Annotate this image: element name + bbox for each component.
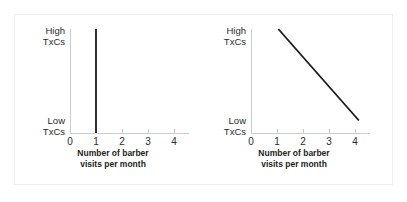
x-axis-title-line1-left: Number of barber [23, 148, 203, 159]
chart-panel-left: High TxCs Low TxCs 0 1 2 3 4 Numb [23, 15, 203, 186]
data-series-sloping-line [247, 21, 387, 146]
x-axis-title-line2-right: visits per month [204, 159, 384, 170]
y-axis-high-label-left: High TxCs [23, 25, 65, 47]
data-series-vertical-line [66, 21, 196, 141]
y-axis-low-label-line2-left: TxCs [23, 126, 65, 137]
x-axis-title-line1-right: Number of barber [204, 148, 384, 159]
y-axis-low-label-right: Low TxCs [204, 115, 246, 137]
plot-area-right: High TxCs Low TxCs 0 1 2 3 4 [251, 29, 369, 133]
x-axis-title-left: Number of barber visits per month [23, 148, 203, 169]
y-axis-high-label-line2-right: TxCs [204, 36, 246, 47]
y-axis-low-label-left: Low TxCs [23, 115, 65, 137]
x-axis-title-right: Number of barber visits per month [204, 148, 384, 169]
x-axis-title-line2-left: visits per month [23, 159, 203, 170]
y-axis-low-label-line2-right: TxCs [204, 126, 246, 137]
y-axis-high-label-line1-left: High [23, 25, 65, 36]
figure-card: High TxCs Low TxCs 0 1 2 3 4 Numb [14, 14, 393, 185]
y-axis-low-label-line1-right: Low [204, 115, 246, 126]
y-axis-low-label-line1-left: Low [23, 115, 65, 126]
plot-area-left: High TxCs Low TxCs 0 1 2 3 4 [70, 29, 188, 133]
chart-panel-right: High TxCs Low TxCs 0 1 2 3 4 Number of b [204, 15, 384, 186]
y-axis-high-label-line1-right: High [204, 25, 246, 36]
y-axis-high-label-line2-left: TxCs [23, 36, 65, 47]
y-axis-high-label-right: High TxCs [204, 25, 246, 47]
